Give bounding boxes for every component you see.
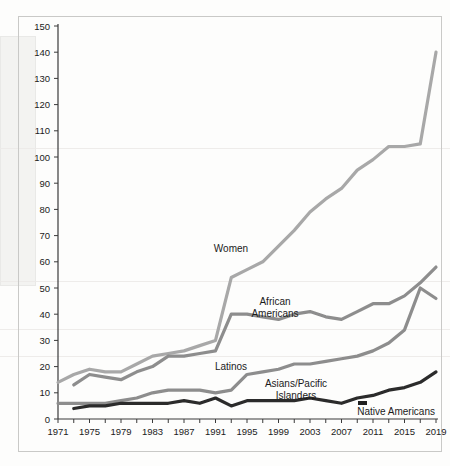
y-tick-label: 0 — [45, 414, 50, 425]
x-tick-label: 1979 — [110, 426, 131, 437]
y-tick-label: 110 — [35, 125, 50, 136]
x-tick-label: 1983 — [142, 426, 163, 437]
series-annotation: Native Americans — [357, 406, 435, 417]
y-tick-label: 50 — [39, 283, 50, 294]
y-tick-label: 10 — [39, 387, 50, 398]
y-tick-label: 30 — [39, 335, 50, 346]
x-tick-label: 2015 — [394, 426, 415, 437]
series-line-women — [58, 52, 436, 382]
series-annotation: Asians/Pacific — [265, 378, 327, 389]
x-tick-label: 2003 — [299, 426, 320, 437]
y-tick-label: 100 — [34, 152, 50, 163]
y-tick-label: 120 — [34, 99, 50, 110]
x-tick-label: 1971 — [47, 426, 68, 437]
x-tick-label: 1995 — [236, 426, 257, 437]
y-tick-label: 150 — [34, 21, 50, 32]
y-tick-label: 140 — [34, 47, 50, 58]
x-tick-label: 2019 — [425, 426, 446, 437]
x-tick-label: 2011 — [363, 426, 383, 437]
chart-figure: 0102030405060708090100110120130140150197… — [0, 0, 450, 466]
y-tick-label: 40 — [39, 309, 50, 320]
y-tick-label: 130 — [34, 73, 50, 84]
y-tick-label: 20 — [39, 361, 50, 372]
x-tick-label: 1987 — [173, 426, 194, 437]
y-tick-label: 90 — [39, 178, 50, 189]
x-tick-label: 1991 — [205, 426, 226, 437]
y-tick-label: 80 — [39, 204, 50, 215]
x-tick-label: 1999 — [268, 426, 289, 437]
line-chart-plot: 0102030405060708090100110120130140150197… — [0, 0, 450, 466]
series-annotation: Islanders — [276, 390, 317, 401]
series-annotation: Women — [214, 243, 248, 254]
native-americans-swatch — [358, 401, 367, 405]
x-tick-label: 2007 — [331, 426, 352, 437]
series-annotation: Americans — [251, 308, 298, 319]
series-annotation: Latinos — [215, 361, 247, 372]
y-tick-label: 60 — [39, 256, 50, 267]
y-tick-label: 70 — [39, 230, 50, 241]
x-tick-label: 1975 — [79, 426, 100, 437]
series-annotation: African — [259, 296, 290, 307]
